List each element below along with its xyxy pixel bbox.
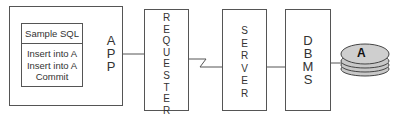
- requester-label: R E Q U E S T E R: [144, 12, 189, 116]
- sample-sql-box: Sample SQL Insert into A Insert into A C…: [21, 23, 83, 87]
- server-label: S E R V E R: [222, 25, 267, 100]
- sql-line: Insert into A: [27, 60, 77, 72]
- sql-line: Insert into A: [27, 48, 77, 60]
- dbms-label: D B M S: [285, 34, 331, 86]
- app-label: A P P: [105, 34, 117, 73]
- database-label: A: [357, 46, 366, 60]
- connector-requester-server: [188, 59, 222, 67]
- sample-sql-lines: Insert into A Insert into A Commit: [22, 44, 82, 83]
- sample-sql-title: Sample SQL: [22, 24, 82, 44]
- sql-line: Commit: [36, 71, 69, 83]
